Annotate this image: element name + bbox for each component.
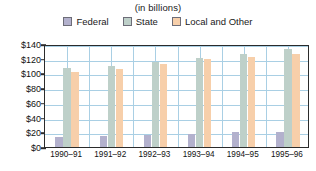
legend-swatch-icon bbox=[172, 17, 181, 26]
y-axis: $140$120$100$80$60$40$20$0 bbox=[0, 45, 41, 148]
y-axis-tick-label: $120 bbox=[21, 55, 41, 65]
bar-federal-1990-91 bbox=[55, 137, 62, 147]
bar-state-1995-96 bbox=[284, 49, 291, 147]
y-axis-tick-label: $60 bbox=[26, 99, 41, 109]
bar-state-1992-93 bbox=[152, 62, 159, 147]
bar-local-1993-94 bbox=[204, 59, 211, 147]
x-axis-tick-label: 1994–95 bbox=[227, 150, 259, 159]
y-axis-tick-label: $100 bbox=[21, 69, 41, 79]
y-axis-tick-label: $80 bbox=[26, 84, 41, 94]
x-axis-tick-label: 1990–91 bbox=[50, 150, 82, 159]
x-axis-tick-label: 1995–96 bbox=[271, 150, 303, 159]
bar-local-1992-93 bbox=[160, 64, 167, 147]
legend-label: Local and Other bbox=[185, 16, 253, 27]
bar-local-1995-96 bbox=[292, 54, 299, 147]
x-axis-tick-label: 1993–94 bbox=[183, 150, 215, 159]
legend-swatch-icon bbox=[123, 17, 132, 26]
y-axis-tick-label: $140 bbox=[21, 40, 41, 50]
legend-item-local-and-other: Local and Other bbox=[172, 16, 253, 27]
bar-local-1991-92 bbox=[116, 69, 123, 147]
chart-container: (in billions) FederalStateLocal and Othe… bbox=[0, 0, 316, 171]
bar-state-1991-92 bbox=[108, 66, 115, 147]
plot-area bbox=[44, 45, 309, 148]
bar-federal-1992-93 bbox=[144, 135, 151, 148]
y-axis-tick-label: $0 bbox=[31, 143, 41, 153]
bar-local-1990-91 bbox=[71, 72, 78, 147]
bar-federal-1991-92 bbox=[100, 136, 107, 147]
bar-federal-1994-95 bbox=[232, 132, 239, 147]
legend-swatch-icon bbox=[63, 17, 72, 26]
legend-label: Federal bbox=[76, 16, 108, 27]
bar-group-container bbox=[45, 46, 308, 147]
x-axis: 1990–911991–921992–931993–941994–951995–… bbox=[44, 150, 309, 166]
legend-item-state: State bbox=[123, 16, 158, 27]
bar-state-1993-94 bbox=[196, 58, 203, 147]
legend-item-federal: Federal bbox=[63, 16, 108, 27]
bar-state-1990-91 bbox=[63, 68, 70, 147]
y-axis-tick-label: $20 bbox=[26, 128, 41, 138]
chart-title: (in billions) bbox=[0, 2, 316, 13]
chart-legend: FederalStateLocal and Other bbox=[0, 16, 316, 27]
bar-federal-1995-96 bbox=[276, 132, 283, 147]
bar-federal-1993-94 bbox=[188, 134, 195, 147]
bar-local-1994-95 bbox=[248, 57, 255, 147]
bar-state-1994-95 bbox=[240, 54, 247, 147]
legend-label: State bbox=[136, 16, 158, 27]
y-axis-tick-label: $40 bbox=[26, 114, 41, 124]
x-axis-tick-label: 1992–93 bbox=[138, 150, 170, 159]
x-axis-tick-label: 1991–92 bbox=[94, 150, 126, 159]
